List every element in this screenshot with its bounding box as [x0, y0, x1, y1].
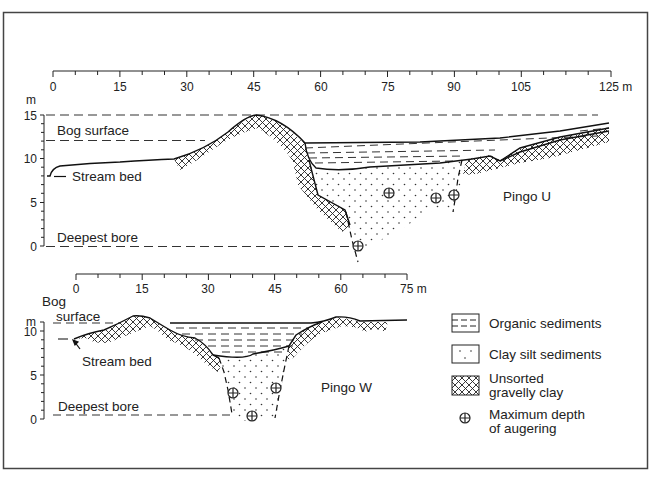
pingo-w-y-tick: 10 — [24, 325, 38, 339]
pingo-w-stream-bed-label: Stream bed — [82, 354, 152, 369]
pingo-u-deepest-bore-label: Deepest bore — [57, 230, 138, 245]
pingo-u-y-axis — [40, 115, 44, 246]
legend-item-clay-silt: Clay silt sediments — [452, 345, 602, 363]
pingo-w-x-tick: 75 m — [400, 282, 427, 296]
pingo-u-x-tick: 60 — [314, 80, 328, 94]
pingo-u-x-tick: 45 — [247, 80, 261, 94]
pingo-cross-section-figure: 0 15 30 45 60 75 90 105 125 m — [0, 0, 651, 480]
pingo-w-deepest-bore-label: Deepest bore — [58, 399, 139, 414]
legend-item-augering: Maximum depth of augering — [460, 407, 585, 436]
pingo-w-surface-label: surface — [56, 309, 100, 324]
pingo-w-x-axis — [76, 274, 407, 280]
legend-item-gravelly-clay: Unsorted gravelly clay — [452, 371, 564, 400]
auger-point-icon — [353, 241, 363, 251]
pingo-u-y-tick: 10 — [24, 152, 38, 166]
pingo-u-stream-bed-label: Stream bed — [72, 169, 142, 184]
legend: Organic sediments Clay silt sediments Un… — [452, 314, 602, 436]
auger-point-icon — [431, 193, 441, 203]
pingo-w-panel: 0 15 30 45 60 75 m m 10 5 0 — [24, 274, 427, 427]
legend-label: Maximum depth — [489, 407, 585, 422]
pingo-w-title: Pingo W — [321, 380, 372, 395]
auger-point-icon — [228, 388, 238, 398]
legend-label: gravelly clay — [489, 385, 564, 400]
pingo-w-x-tick: 0 — [73, 282, 80, 296]
pingo-u-x-tick: 30 — [180, 80, 194, 94]
pingo-u-title: Pingo U — [503, 189, 551, 204]
pingo-u-panel: 0 15 30 45 60 75 90 105 125 m — [24, 71, 633, 262]
pingo-u-y-unit: m — [26, 93, 36, 107]
pingo-w-stream-bed-arrow — [73, 340, 80, 349]
legend-label: Clay silt sediments — [489, 347, 602, 362]
auger-point-icon — [449, 190, 459, 200]
auger-point-icon — [247, 411, 257, 421]
pingo-u-x-axis — [53, 71, 611, 77]
auger-symbol-icon — [460, 413, 470, 423]
pingo-w-y-tick: 0 — [30, 413, 37, 427]
pingo-u-x-tick: 105 — [511, 80, 531, 94]
auger-point-icon — [271, 383, 281, 393]
pingo-u-x-tick: 15 — [113, 80, 127, 94]
legend-label: Organic sediments — [489, 316, 602, 331]
pingo-w-bog-label: Bog — [42, 294, 66, 309]
pingo-u-bog-surface-label: Bog surface — [57, 123, 129, 138]
pingo-w-x-tick: 30 — [201, 282, 215, 296]
pingo-w-x-tick: 60 — [334, 282, 348, 296]
pingo-w-x-tick: 45 — [268, 282, 282, 296]
pingo-u-x-tick: 90 — [447, 80, 461, 94]
pingo-u-y-tick: 5 — [30, 196, 37, 210]
pingo-w-y-tick: 5 — [30, 369, 37, 383]
pingo-u-y-tick: 0 — [30, 240, 37, 254]
pingo-u-y-tick: 15 — [24, 109, 38, 123]
pingo-u-x-tick: 0 — [50, 80, 57, 94]
legend-label: Unsorted — [489, 371, 544, 386]
legend-item-organic: Organic sediments — [452, 314, 602, 332]
pingo-u-x-tick: 125 m — [599, 80, 632, 94]
legend-label: of augering — [489, 421, 557, 436]
pingo-w-x-tick: 15 — [135, 282, 149, 296]
auger-point-icon — [384, 188, 394, 198]
pingo-w-y-axis — [40, 322, 44, 419]
pingo-u-x-tick: 75 — [381, 80, 395, 94]
